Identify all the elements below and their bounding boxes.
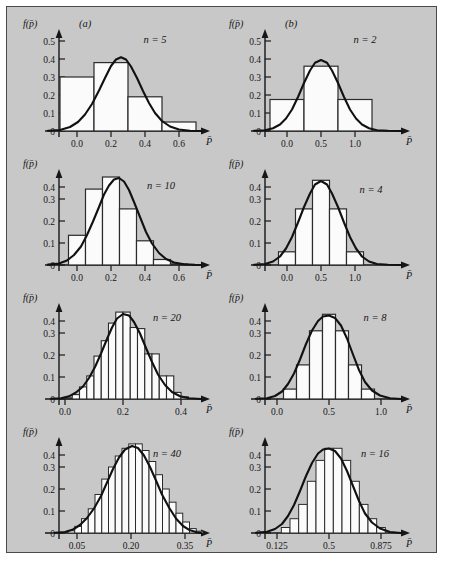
xtick-label: 0.05 — [69, 541, 86, 549]
chart-panel-a-n10: 0 0.1 0.2 0.3 0.4 0.0 0.2 0.4 0.6 — [15, 147, 225, 281]
histogram-bar — [94, 63, 128, 131]
plot-b-n2: 0 0.1 0.2 0.3 0.4 0.5 0.0 0.5 1.0 — [225, 13, 435, 147]
xtick-label: 0.2 — [105, 273, 117, 281]
x-axis-label: P̄ — [405, 136, 412, 147]
xtick-label: 0.5 — [323, 541, 335, 549]
chart-panel-b-n2: 0 0.1 0.2 0.3 0.4 0.5 0.0 0.5 1.0 — [225, 13, 435, 147]
xtick-label: 0.4 — [175, 407, 187, 415]
ytick-label: 0.2 — [43, 351, 55, 361]
ytick-label: 0.1 — [249, 239, 261, 249]
xtick-label: 1.0 — [349, 139, 361, 147]
sample-size-annotation: n = 16 — [361, 448, 390, 459]
xtick-label: 0.6 — [173, 139, 185, 147]
y-axis-label: f(p̄) — [23, 158, 38, 170]
histogram-bar — [72, 395, 79, 399]
xtick-label: 0.0 — [281, 273, 293, 281]
xtick-label: 0.20 — [123, 541, 140, 549]
histogram-bar — [129, 444, 136, 533]
histogram-bar — [330, 209, 347, 265]
y-axis-label: f(p̄) — [229, 426, 244, 438]
ytick-label: 0.5 — [249, 37, 261, 47]
ytick-label: 0.1 — [43, 373, 55, 383]
xtick-label: 0.5 — [315, 139, 327, 147]
histogram-bar — [284, 389, 297, 399]
sample-size-annotation: n = 20 — [153, 312, 182, 323]
xtick-label: 0.4 — [139, 273, 151, 281]
x-axis-label: P̄ — [405, 538, 412, 549]
ytick-label: 0.3 — [249, 73, 261, 83]
histogram-bar — [310, 331, 323, 399]
y-axis-label: f(p̄) — [229, 158, 244, 170]
histogram-bar — [123, 312, 130, 399]
histogram-bar — [281, 528, 290, 534]
histogram-bar — [130, 328, 137, 400]
histogram-bar — [136, 444, 143, 533]
plot-a-n20: 0 0.1 0.2 0.3 0.4 0.0 0.2 0.4 — [15, 281, 225, 415]
histogram-bar — [307, 481, 316, 533]
ytick-label: 0.3 — [249, 463, 261, 473]
ytick-label: 0.1 — [249, 109, 261, 119]
histogram-bar — [299, 504, 308, 533]
histogram-bar — [333, 448, 342, 533]
x-axis-label: P̄ — [205, 538, 212, 549]
histogram-bar — [103, 177, 120, 265]
histogram-bar — [115, 456, 122, 533]
xtick-label: 0.35 — [177, 541, 194, 549]
histogram-bar — [313, 180, 330, 265]
plot-a-n40: 0 0.1 0.2 0.3 0.4 0.05 0.20 0.35 — [15, 415, 225, 549]
histogram-bar — [137, 241, 154, 265]
plot-a-n5: 0 0.1 0.2 0.3 0.4 0.5 0.0 0.2 0.4 0.6 — [15, 13, 225, 147]
xtick-label: 0.0 — [271, 407, 283, 415]
x-axis-label: P̄ — [405, 404, 412, 415]
chart-panel-b-n16: 0 0.1 0.2 0.3 0.4 0.125 0.5 0.875 — [225, 415, 435, 549]
plot-b-n4: 0 0.1 0.2 0.3 0.4 0.0 0.5 1.0 — [225, 147, 435, 281]
xtick-label: 1.0 — [375, 407, 387, 415]
ytick-label: 0 — [50, 261, 55, 271]
xtick-label: 0.5 — [323, 407, 335, 415]
histogram-bar — [122, 448, 129, 533]
ytick-label: 0.2 — [43, 217, 55, 227]
ytick-label: 0.3 — [43, 329, 55, 339]
ytick-label: 0.3 — [43, 195, 55, 205]
histogram-bar — [120, 209, 137, 265]
ytick-label: 0.4 — [249, 55, 261, 65]
xtick-label: 0.0 — [59, 407, 71, 415]
y-axis-label: f(p̄) — [23, 292, 38, 304]
ytick-label: 0.3 — [249, 195, 261, 205]
xtick-label: 0.4 — [139, 139, 151, 147]
ytick-label: 0.1 — [249, 373, 261, 383]
xtick-label: 0.2 — [117, 407, 129, 415]
panel-label: (a) — [79, 18, 92, 30]
plot-a-n10: 0 0.1 0.2 0.3 0.4 0.0 0.2 0.4 0.6 — [15, 147, 225, 281]
histogram-bar — [138, 329, 145, 399]
xtick-label: 0.0 — [71, 273, 83, 281]
sample-size-annotation: n = 2 — [354, 34, 378, 45]
ytick-label: 0.3 — [43, 73, 55, 83]
y-axis-label: f(p̄) — [229, 292, 244, 304]
y-axis-label: f(p̄) — [23, 18, 38, 30]
ytick-label: 0.3 — [249, 329, 261, 339]
ytick-label: 0.2 — [43, 91, 55, 101]
ytick-label: 0.1 — [43, 239, 55, 249]
chart-panel-a-n20: 0 0.1 0.2 0.3 0.4 0.0 0.2 0.4 — [15, 281, 225, 415]
sample-size-annotation: n = 4 — [360, 184, 384, 195]
x-axis-label: P̄ — [405, 270, 412, 281]
chart-panel-a-n5: 0 0.1 0.2 0.3 0.4 0.5 0.0 0.2 0.4 0.6 — [15, 13, 225, 147]
histogram-bar — [316, 460, 325, 533]
y-axis-label: f(p̄) — [23, 426, 38, 438]
histogram-bar — [325, 448, 334, 533]
ytick-label: 0.3 — [43, 463, 55, 473]
ytick-label: 0.4 — [249, 183, 261, 193]
chart-panel-b-n4: 0 0.1 0.2 0.3 0.4 0.0 0.5 1.0 — [225, 147, 435, 281]
plot-b-n8: 0 0.1 0.2 0.3 0.4 0.0 0.5 1.0 — [225, 281, 435, 415]
figure-frame: 0 0.1 0.2 0.3 0.4 0.5 0.0 0.2 0.4 0.6 — [6, 6, 437, 553]
x-axis-label: P̄ — [205, 404, 212, 415]
ytick-label: 0.4 — [43, 183, 55, 193]
sample-size-annotation: n = 8 — [364, 312, 388, 323]
xtick-label: 0.2 — [105, 139, 117, 147]
ytick-label: 0.2 — [249, 351, 261, 361]
ytick-label: 0.2 — [249, 91, 261, 101]
ytick-label: 0.1 — [249, 507, 261, 517]
x-axis-label: P̄ — [205, 136, 212, 147]
panel-label: (b) — [285, 18, 298, 30]
